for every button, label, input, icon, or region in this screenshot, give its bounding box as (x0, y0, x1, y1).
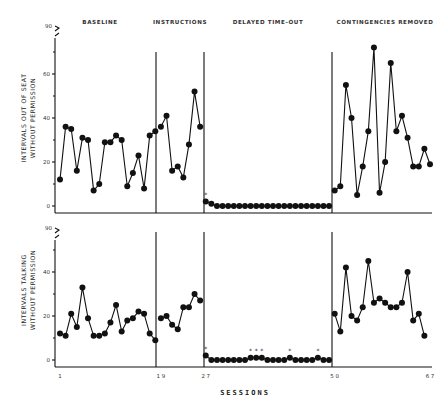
data-point (186, 141, 192, 147)
data-point (332, 311, 338, 317)
data-point (416, 163, 422, 169)
data-point (186, 304, 192, 310)
x-tick-label: 1 (58, 373, 62, 379)
data-point (85, 137, 91, 143)
data-point (377, 295, 383, 301)
data-point (102, 331, 108, 337)
data-point (393, 304, 399, 310)
data-point (248, 355, 254, 361)
data-point (421, 333, 427, 339)
data-point (248, 203, 254, 209)
data-point (208, 201, 214, 207)
data-point (130, 315, 136, 321)
x-tick-label: 2 7 (201, 373, 210, 379)
data-point (158, 124, 164, 130)
phase-label: BASELINE (82, 19, 117, 25)
asterisk-marker: * (249, 347, 252, 354)
data-point (292, 203, 298, 209)
data-point (180, 304, 186, 310)
data-point (220, 203, 226, 209)
data-point (388, 60, 394, 66)
y-tick-label: 0 (47, 357, 51, 363)
data-point (287, 355, 293, 361)
data-point (276, 203, 282, 209)
data-point (270, 357, 276, 363)
single-subject-design-chart: BASELINEINSTRUCTIONSDELAYED TIME-OUTCONT… (0, 0, 448, 409)
data-point (405, 135, 411, 141)
asterisk-marker: * (204, 345, 207, 352)
data-point (349, 115, 355, 121)
data-point (315, 203, 321, 209)
data-point (320, 203, 326, 209)
data-point (119, 137, 125, 143)
data-point (231, 203, 237, 209)
data-point (164, 113, 170, 119)
data-point (304, 357, 310, 363)
data-point (147, 133, 153, 139)
data-point (74, 324, 80, 330)
data-point (79, 284, 85, 290)
data-point (225, 357, 231, 363)
data-point (208, 357, 214, 363)
data-point (360, 304, 366, 310)
data-point (343, 265, 349, 271)
data-point (192, 291, 198, 297)
data-point (236, 203, 242, 209)
data-point (309, 357, 315, 363)
x-tick-label: 6 7 (426, 373, 435, 379)
data-point (405, 269, 411, 275)
data-point (360, 163, 366, 169)
data-point (365, 128, 371, 134)
series-contingencies-removed (332, 45, 433, 198)
data-point (57, 331, 63, 337)
data-point (264, 203, 270, 209)
data-point (337, 328, 343, 334)
data-point (320, 357, 326, 363)
data-point (102, 139, 108, 145)
data-point (175, 163, 181, 169)
data-point (197, 298, 203, 304)
data-point (180, 174, 186, 180)
y-break-label: 90 (45, 225, 52, 231)
series-baseline (57, 124, 158, 194)
data-point (119, 328, 125, 334)
y-tick-label: 20 (43, 313, 50, 319)
data-point (304, 203, 310, 209)
data-point (91, 333, 97, 339)
x-tick-label: 1 9 (157, 373, 166, 379)
phase-label: INSTRUCTIONS (153, 19, 207, 25)
data-point (332, 188, 338, 194)
data-point (169, 168, 175, 174)
data-point (371, 300, 377, 306)
data-point (57, 177, 63, 183)
asterisk-marker: * (288, 347, 291, 354)
data-point (377, 190, 383, 196)
data-point (68, 126, 74, 132)
data-point (270, 203, 276, 209)
data-point (63, 333, 69, 339)
data-point (68, 311, 74, 317)
data-point (214, 357, 220, 363)
asterisk-marker: * (255, 347, 258, 354)
data-point (343, 82, 349, 88)
data-point (124, 183, 130, 189)
y-axis-label: INTERVALS TALKINGWITHOUT PERMISSION (20, 250, 36, 331)
y-tick-label: 0 (47, 203, 51, 209)
data-point (85, 315, 91, 321)
data-point (96, 333, 102, 339)
data-point (365, 258, 371, 264)
data-point (315, 355, 321, 361)
data-point (164, 313, 170, 319)
series-baseline (57, 284, 158, 343)
data-point (298, 357, 304, 363)
data-point (74, 168, 80, 174)
x-axis-label: SESSIONS (220, 389, 270, 397)
data-point (242, 357, 248, 363)
y-tick-label: 20 (43, 159, 50, 165)
y-break-label: 90 (45, 23, 52, 29)
phase-label: CONTINGENCIES REMOVED (337, 19, 434, 25)
data-point (203, 199, 209, 205)
data-point (169, 322, 175, 328)
data-point (107, 320, 113, 326)
data-point (416, 311, 422, 317)
